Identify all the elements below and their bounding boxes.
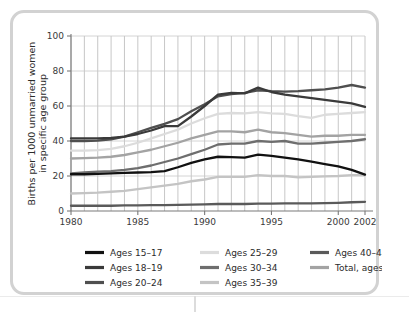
x-tick-label: 1990 xyxy=(193,217,216,227)
y-tick-label: 80 xyxy=(53,66,65,76)
x-tick-label: 1995 xyxy=(260,217,283,227)
x-tick-label: 2000 xyxy=(327,217,350,227)
y-axis-title-line2: in specific age group xyxy=(37,74,48,173)
y-tick-label: 60 xyxy=(53,101,65,111)
legend-label: Total, ages 15–44 xyxy=(334,263,382,273)
y-tick-label: 0 xyxy=(58,206,64,216)
page-divider-rule xyxy=(0,296,409,297)
legend-item[interactable]: Ages 35–39 xyxy=(200,278,278,288)
figure-frame: 020406080100198019851990199520002002Birt… xyxy=(10,10,379,295)
legend-item[interactable]: Ages 15–17 xyxy=(85,248,162,258)
y-tick-label: 20 xyxy=(53,171,65,181)
legend-item[interactable]: Ages 40–44 xyxy=(310,248,382,258)
line-chart: 020406080100198019851990199520002002Birt… xyxy=(13,13,382,298)
legend-label: Ages 25–29 xyxy=(225,248,278,258)
x-tick-label: 1985 xyxy=(126,217,149,227)
legend-label: Ages 20–24 xyxy=(110,278,163,288)
legend-label: Ages 15–17 xyxy=(110,248,162,258)
legend-item[interactable]: Ages 18–19 xyxy=(85,263,163,273)
legend-item[interactable]: Ages 25–29 xyxy=(200,248,278,258)
x-tick-label: 1980 xyxy=(60,217,83,227)
legend-label: Ages 18–19 xyxy=(110,263,163,273)
page-stem-artifact xyxy=(194,296,196,312)
legend-label: Ages 30–34 xyxy=(225,263,278,273)
legend-label: Ages 40–44 xyxy=(335,248,382,258)
y-tick-label: 100 xyxy=(47,31,64,41)
legend-item[interactable]: Ages 20–24 xyxy=(85,278,163,288)
y-axis-title-line1: Births per 1000 unmarried women xyxy=(26,42,37,206)
legend-label: Ages 35–39 xyxy=(225,278,278,288)
legend-item[interactable]: Total, ages 15–44 xyxy=(310,263,382,273)
x-tick-label: 2002 xyxy=(354,217,377,227)
y-tick-label: 40 xyxy=(53,136,65,146)
chart-container: 020406080100198019851990199520002002Birt… xyxy=(13,13,382,298)
legend-item[interactable]: Ages 30–34 xyxy=(200,263,278,273)
